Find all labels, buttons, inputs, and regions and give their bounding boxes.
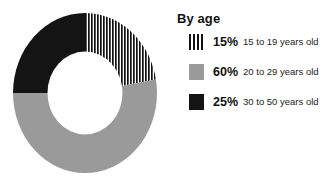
donut-chart xyxy=(13,13,157,173)
donut-segment-30-50 xyxy=(13,13,85,93)
legend-percent: 25% xyxy=(213,94,238,110)
legend-item-20-29: 60% 20 to 29 years old xyxy=(177,64,330,80)
legend-percent: 15% xyxy=(213,34,238,50)
legend-label: 20 to 29 years old xyxy=(243,64,319,80)
striped-swatch-icon xyxy=(189,34,204,50)
legend-item-30-50: 25% 30 to 50 years old xyxy=(177,94,330,110)
legend-percent: 60% xyxy=(213,64,238,80)
donut-chart-svg xyxy=(13,13,157,173)
gray-swatch-icon xyxy=(189,64,204,80)
donut-chart-figure: By age 15% 15 to 19 years old 60% 20 to … xyxy=(0,0,330,181)
donut-segment-20-29 xyxy=(13,79,157,173)
legend-label: 15 to 19 years old xyxy=(243,34,319,50)
donut-segment-15-19 xyxy=(85,13,157,93)
legend-item-15-19: 15% 15 to 19 years old xyxy=(177,34,330,50)
legend-title: By age xyxy=(177,12,330,26)
black-swatch-icon xyxy=(189,94,204,110)
legend: By age 15% 15 to 19 years old 60% 20 to … xyxy=(177,12,330,124)
legend-label: 30 to 50 years old xyxy=(243,94,319,110)
